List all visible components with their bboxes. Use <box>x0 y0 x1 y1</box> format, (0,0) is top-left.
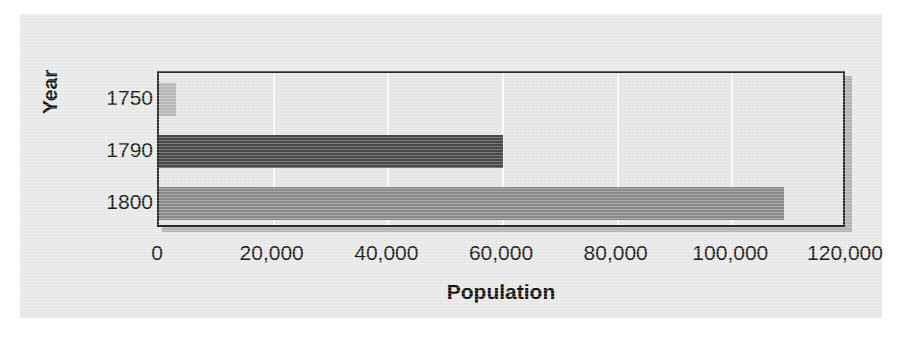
bar-1800 <box>159 187 784 220</box>
x-tick-100000: 100,000 <box>692 242 768 263</box>
x-tick-40000: 40,000 <box>354 242 418 263</box>
x-tick-120000: 120,000 <box>807 242 883 263</box>
x-tick-80000: 80,000 <box>584 242 648 263</box>
y-axis-title: Year <box>38 70 62 114</box>
bar-fill <box>159 135 503 168</box>
y-tick-1750: 1750 <box>79 87 153 108</box>
y-tick-1790: 1790 <box>79 139 153 160</box>
plot-area <box>157 71 845 227</box>
chart-canvas: Year 175017901800 020,00040,00060,00080,… <box>20 14 882 318</box>
x-tick-0: 0 <box>151 242 163 263</box>
bar-1750 <box>159 83 176 116</box>
bar-fill <box>159 187 784 220</box>
x-axis-title: Population <box>157 280 845 304</box>
y-axis-tick-labels: 175017901800 <box>73 71 153 227</box>
bar-1790 <box>159 135 503 168</box>
x-tick-60000: 60,000 <box>469 242 533 263</box>
bar-chart: Year 175017901800 020,00040,00060,00080,… <box>0 0 903 340</box>
x-axis-tick-labels: 020,00040,00060,00080,000100,000120,000 <box>157 242 845 268</box>
y-tick-1800: 1800 <box>79 191 153 212</box>
x-tick-20000: 20,000 <box>240 242 304 263</box>
bar-series <box>159 73 843 225</box>
bar-fill <box>159 83 176 116</box>
